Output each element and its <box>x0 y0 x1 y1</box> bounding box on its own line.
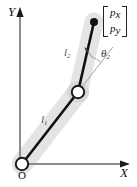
link-1-subscript: 1 <box>44 119 48 127</box>
end-effector-point[interactable] <box>90 18 98 26</box>
y-axis-arrow-icon <box>16 7 23 17</box>
vector-rows: px py <box>108 6 122 37</box>
link-2-subscript: 2 <box>67 52 71 60</box>
link-2-label: l2 <box>64 47 71 60</box>
theta-2-label: θ2 <box>101 48 110 61</box>
end-effector-position-vector: px py <box>103 6 127 37</box>
bracket-right-icon <box>122 6 127 37</box>
link-1-line <box>22 92 78 164</box>
vector-row-py: py <box>110 22 120 37</box>
origin-label: O <box>18 170 26 181</box>
link-1-label: l1 <box>41 114 48 127</box>
vector-row-px: px <box>110 6 120 21</box>
x-axis-label: X <box>120 166 128 179</box>
elbow-joint[interactable] <box>72 86 84 98</box>
theta-subscript: 2 <box>106 53 110 61</box>
robot-arm-figure: Y X O l1 l2 θ2 px py <box>0 0 137 187</box>
y-axis-label: Y <box>8 5 15 18</box>
